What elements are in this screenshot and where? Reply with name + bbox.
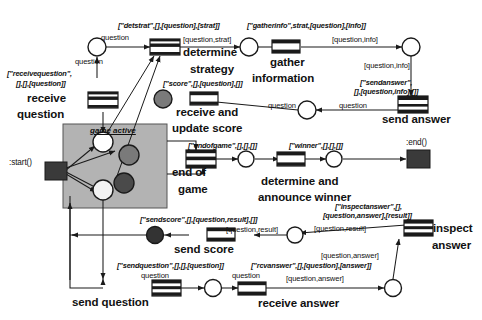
place-score-marked	[147, 227, 164, 244]
annotation-sendquestion: ["sendquestion",[],[],[question]]	[117, 262, 224, 270]
subnet-box	[63, 124, 167, 208]
arc-label-question-to-receive: question	[75, 58, 103, 66]
annotation-inspectanswer-l1: ["inspectanswer",[],	[335, 203, 402, 211]
arc-label-question-answer-low: [question,answer]	[286, 275, 344, 283]
start-terminal	[45, 162, 67, 180]
transition-name-inspect-l2: answer	[432, 239, 471, 251]
transition-gather-information	[272, 40, 300, 53]
arc-label-question-info-down: [question,info]	[364, 62, 410, 70]
transition-receive-update-score	[190, 92, 218, 105]
annotation-sendanswer-l1: ["sendanswer",	[360, 79, 412, 87]
subnet-label: game active	[90, 127, 136, 135]
arc-label-question-sendq: question	[141, 272, 169, 280]
transition-name-send-answer: send answer	[382, 113, 451, 125]
transition-name-end-of-game-l1: end of	[172, 166, 206, 178]
transition-name-end-of-game-l2: game	[178, 183, 208, 195]
annotation-receivequestion-l2: [],[],[question]]	[16, 80, 66, 88]
transition-name-receive-answer: receive answer	[258, 297, 339, 309]
transition-name-gather-information-l1: gather	[270, 56, 305, 68]
place-before-winner	[238, 151, 254, 167]
arc-label-question-strat: [question,strat]	[183, 36, 231, 44]
annotation-winner: ["winner",[],[],[]]	[289, 142, 343, 150]
transition-name-send-score: send score	[174, 243, 234, 255]
transition-name-receive-update-l1: receive and	[176, 106, 238, 118]
place-score-result	[287, 227, 303, 243]
arc-label-question-answer-up: [question,answer]	[321, 252, 379, 260]
arc-label-question-top: question	[101, 34, 129, 42]
place-question-strat	[240, 38, 258, 56]
place-subnet-mid-lower	[114, 173, 134, 193]
transition-name-receive-question-l1: receive	[27, 92, 66, 104]
transition-name-inspect-l1: inspect	[433, 222, 473, 234]
annotation-inspectanswer-l2: [question,answer],[result]]	[323, 212, 412, 220]
arc-label-question-sendanswer: question	[339, 102, 367, 110]
annotation-score: ["score",[],[question],[]]	[163, 80, 242, 88]
transition-send-answer	[398, 96, 428, 113]
place-after-winner	[326, 151, 342, 167]
place-question-info	[402, 38, 420, 56]
arc-label-question-score: question	[268, 102, 296, 110]
place-subnet-mid-upper	[119, 145, 139, 165]
transition-name-gather-information-l2: information	[252, 72, 314, 84]
transition-name-receive-update-l2: update score	[172, 122, 242, 134]
transition-receive-answer	[238, 282, 266, 295]
transition-name-send-question: send question	[72, 296, 149, 308]
annotation-endofgame: ["endofgame",[],[],[]]	[188, 142, 257, 150]
place-question-out	[205, 280, 222, 297]
annotation-sendscore: ["sendscore",[],[question,result],[]]	[140, 216, 257, 224]
end-terminal	[407, 150, 430, 168]
place-score-token	[154, 90, 172, 108]
arc-label-question-result-low: [question,result]	[226, 226, 278, 234]
transition-name-determine-strategy-l2: strategy	[190, 63, 234, 75]
arc-label-question-rcvans: question	[232, 272, 260, 280]
transition-determine-strategy	[150, 39, 180, 55]
petri-net-diagram: ["detstrat",[],[question],[strat]] quest…	[0, 0, 482, 320]
arc-label-question-info-top: [question,info]	[332, 36, 378, 44]
place-question-back	[298, 101, 316, 119]
place-answer	[385, 280, 402, 297]
transition-send-question	[152, 280, 181, 296]
transition-determine-announce-winner	[277, 152, 305, 166]
place-subnet-bottom	[93, 180, 113, 200]
annotation-receivequestion-l1: ["receivequestion",	[7, 70, 72, 78]
transition-name-determine-strategy-l1: determine	[183, 46, 237, 58]
start-terminal-label: :start()	[9, 159, 32, 168]
annotation-rcvanswer: ["rcvanswer",[],[question],[answer]]	[251, 262, 371, 270]
annotation-gatherinfo: ["gatherinfo",strat,[question],[info]]	[247, 22, 366, 30]
transition-inspect-answer	[404, 220, 433, 236]
transition-name-receive-question-l2: question	[17, 108, 64, 120]
end-terminal-label: :end()	[406, 139, 427, 148]
transition-receive-question	[88, 92, 118, 108]
transition-name-winner-l1: determine and	[261, 175, 338, 187]
arc-label-question-result-top: [question,result]	[314, 225, 366, 233]
annotation-sendanswer-l2: [],[question,info],[]]	[354, 88, 418, 96]
annotation-detstrat: ["detstrat",[],[question],[strat]]	[118, 22, 220, 30]
